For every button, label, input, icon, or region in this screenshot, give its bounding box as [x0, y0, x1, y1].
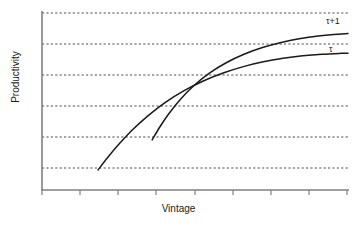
productivity-vintage-chart: τ+1 τ Vintage Productivity [0, 0, 357, 227]
series-line-tau-plus-1 [152, 34, 348, 140]
series-line-tau [98, 53, 348, 170]
y-axis-label: Productivity [10, 51, 21, 103]
x-axis-label: Vintage [0, 203, 357, 214]
series-label-tau-plus-1: τ+1 [326, 17, 340, 26]
gridlines [42, 13, 348, 168]
y-axis-label-wrapper: Productivity [5, 17, 23, 137]
series-label-tau: τ [329, 45, 333, 54]
chart-canvas [0, 0, 357, 227]
